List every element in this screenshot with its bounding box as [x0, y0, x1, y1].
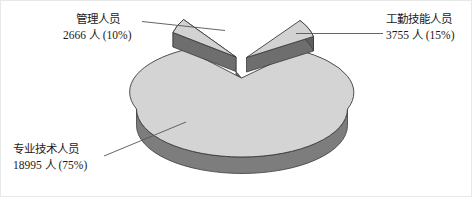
label-management-value: 2666 人 (10%): [63, 28, 132, 44]
slice-professional[interactable]: [130, 50, 354, 174]
label-professional: 专业技术人员 18995 人 (75%): [13, 142, 87, 174]
label-logistics: 工勤技能人员 3755 人 (15%): [386, 12, 455, 44]
label-logistics-value: 3755 人 (15%): [386, 28, 455, 44]
slice-professional-top: [130, 50, 354, 158]
label-professional-value: 18995 人 (75%): [13, 158, 87, 174]
label-management: 管理人员 2666 人 (10%): [63, 12, 132, 44]
pie-chart-figure: 管理人员 2666 人 (10%) 工勤技能人员 3755 人 (15%) 专业…: [0, 0, 473, 198]
label-professional-name: 专业技术人员: [13, 142, 87, 158]
label-management-name: 管理人员: [63, 12, 132, 28]
label-logistics-name: 工勤技能人员: [386, 12, 455, 28]
